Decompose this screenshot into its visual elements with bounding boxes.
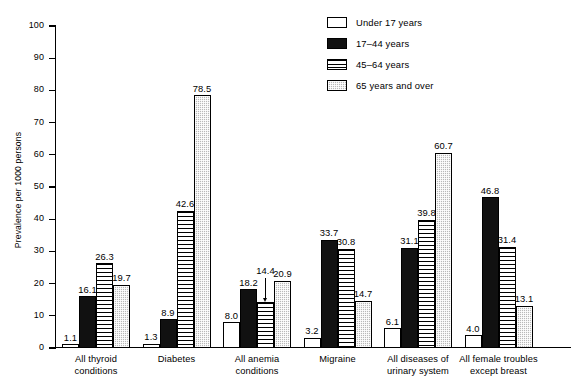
category-label-line: All female troubles <box>429 353 569 365</box>
bar-value-label: 60.7 <box>424 141 464 151</box>
y-tick-label-90: 90 <box>4 53 44 62</box>
bar <box>418 220 435 348</box>
y-tick-label-0: 0 <box>4 343 44 352</box>
legend-item[interactable]: 45–64 years <box>327 54 434 75</box>
y-tick-label-20: 20 <box>4 279 44 288</box>
bar <box>113 285 130 348</box>
bar <box>257 302 274 348</box>
bar-group: 4.046.831.413.1 <box>465 26 533 348</box>
bar <box>435 153 452 348</box>
legend-swatch-icon <box>327 59 347 70</box>
plot-area: 1.116.126.319.71.38.942.678.58.018.214.4… <box>55 26 571 348</box>
bar-value-label: 14.7 <box>343 289 383 299</box>
category-label-line: except breast <box>429 365 569 377</box>
legend: Under 17 years17–44 years45–64 years65 y… <box>327 12 434 96</box>
bar <box>384 328 401 348</box>
legend-label: 17–44 years <box>356 39 409 49</box>
y-tick-label-30: 30 <box>4 246 44 255</box>
annotation-leader-arrow-icon <box>265 278 266 298</box>
bar-value-label: 26.3 <box>85 252 125 262</box>
bar <box>143 344 160 348</box>
bar-group: 8.018.214.420.9 <box>223 26 291 348</box>
bar <box>177 211 194 348</box>
legend-label: 65 years and over <box>356 81 434 91</box>
legend-label: 45–64 years <box>356 60 409 70</box>
bar-group: 1.116.126.319.7 <box>62 26 130 348</box>
bar <box>516 306 533 348</box>
bar <box>401 248 418 348</box>
y-tick-label-100: 100 <box>4 21 44 30</box>
bar <box>160 319 177 348</box>
bar <box>465 335 482 348</box>
bar-value-label: 31.4 <box>487 235 527 245</box>
y-tick-label-60: 60 <box>4 150 44 159</box>
y-tick-label-80: 80 <box>4 85 44 94</box>
bar <box>321 240 338 349</box>
bar <box>355 301 372 348</box>
bar-group: 1.38.942.678.5 <box>143 26 211 348</box>
bar-value-label: 18.2 <box>229 278 269 288</box>
bar-value-label: 46.8 <box>470 186 510 196</box>
y-tick-label-40: 40 <box>4 214 44 223</box>
bar <box>240 289 257 348</box>
legend-item[interactable]: Under 17 years <box>327 12 434 33</box>
legend-item[interactable]: 17–44 years <box>327 33 434 54</box>
bar <box>79 296 96 348</box>
bar-value-label: 20.9 <box>263 269 303 279</box>
bar <box>482 197 499 348</box>
bar-value-label: 78.5 <box>182 84 222 94</box>
bar <box>304 338 321 348</box>
y-tick-label-10: 10 <box>4 311 44 320</box>
bar-value-label: 19.7 <box>102 273 142 283</box>
bar <box>223 322 240 348</box>
bar <box>194 95 211 348</box>
category-label-line: conditions <box>26 365 166 377</box>
legend-label: Under 17 years <box>356 18 422 28</box>
bar-value-label: 30.8 <box>326 237 366 247</box>
legend-swatch-icon <box>327 80 347 91</box>
category-label-line: conditions <box>187 365 327 377</box>
y-tick-label-70: 70 <box>4 118 44 127</box>
legend-swatch-icon <box>327 17 347 28</box>
bar-value-label: 13.1 <box>504 294 544 304</box>
legend-item[interactable]: 65 years and over <box>327 75 434 96</box>
category-label: All female troublesexcept breast <box>429 353 569 378</box>
bar <box>274 281 291 348</box>
y-tick-label-50: 50 <box>4 182 44 191</box>
bar <box>62 344 79 348</box>
legend-swatch-icon <box>327 38 347 49</box>
prevalence-bar-chart: Prevalence per 1000 persons 010203040506… <box>0 0 575 384</box>
